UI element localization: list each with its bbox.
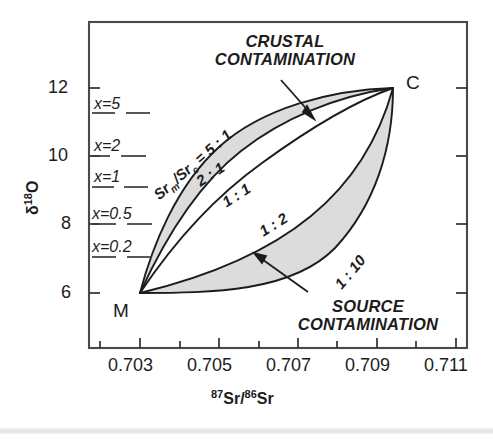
y-axis-ticks-right [456,88,467,293]
y-axis-ticks [89,88,100,293]
crustal-contamination-line2: CONTAMINATION [190,50,380,68]
x-axis-ticks [100,338,456,348]
endpoint-label-M: M [113,300,129,322]
crustal-contamination-label: CRUSTAL CONTAMINATION [190,32,380,69]
y-tick-label-10: 10 [48,145,68,166]
x-marker-label-1: x=1 [94,168,120,186]
y-axis-delta-symbol: δ [24,205,41,215]
y-axis-mass-number: 18 [22,193,34,205]
y-tick-label-6: 6 [61,282,71,303]
x-axis-sr-slash: Sr/ [223,390,244,407]
x-marker-label-5: x=5 [94,95,120,113]
x-axis-sup-87: 87 [211,388,223,400]
y-axis-element: O [24,181,41,193]
y-tick-label-8: 8 [61,213,71,234]
y-tick-label-12: 12 [48,77,68,98]
x-axis-title: 87Sr/86Sr [211,388,274,408]
x-tick-label-0709: 0.709 [345,355,390,376]
page-edge-strip [0,427,493,434]
endpoint-label-C: C [406,72,420,94]
source-contamination-line1: SOURCE [278,297,458,315]
source-contamination-line2: CONTAMINATION [278,315,458,333]
x-axis-sr-end: Sr [257,390,274,407]
x-tick-label-0705: 0.705 [187,355,232,376]
x-tick-label-0711: 0.711 [424,355,468,376]
x-tick-label-0703: 0.703 [108,355,153,376]
x-axis-sup-86: 86 [245,388,257,400]
x-marker-label-05: x=0.5 [92,205,132,223]
source-contamination-label: SOURCE CONTAMINATION [278,297,458,334]
x-tick-label-0707: 0.707 [266,355,311,376]
crustal-contamination-line1: CRUSTAL [190,32,380,50]
x-marker-label-2: x=2 [94,137,120,155]
y-axis-title: δ18O [22,181,42,215]
x-marker-label-02: x=0.2 [92,238,132,256]
figure-root: 12 10 8 6 0.703 0.705 0.707 0.709 0.711 … [0,0,493,439]
